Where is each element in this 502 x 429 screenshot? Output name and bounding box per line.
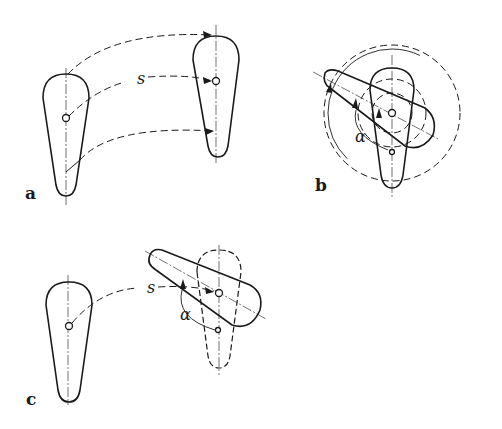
arrow-mid [203, 77, 212, 84]
diagram-canvas: s a α b [0, 0, 502, 429]
pivot-c1 [66, 323, 73, 330]
panel-label-b: b [315, 175, 327, 195]
pivot-c2 [216, 290, 223, 297]
panel-c: s α c [26, 245, 266, 409]
arrow-c-rotate [180, 279, 186, 289]
panel-label-a: a [25, 183, 36, 203]
panel-label-c: c [26, 389, 36, 409]
panel-b: α b [313, 45, 460, 198]
symbol-alpha-c: α [180, 305, 191, 324]
arrow-bottom [205, 128, 214, 135]
pivot-a2 [213, 78, 220, 85]
panel-a: s a [25, 25, 239, 205]
path-c-1 [72, 288, 138, 323]
symbol-s-a: s [137, 69, 145, 88]
symbol-s-c: s [147, 278, 155, 297]
link-c1-outline [46, 282, 92, 402]
pivot-b [389, 110, 396, 117]
motion-diagram: s a α b [0, 0, 502, 429]
pivot-a1 [63, 115, 70, 122]
path-bottom [80, 130, 214, 160]
arrow-rot-inner [376, 108, 382, 118]
marker-c [216, 328, 221, 333]
marker-b [390, 150, 395, 155]
arrow-rot-mid [352, 98, 358, 108]
symbol-alpha-b: α [355, 127, 366, 146]
link-c2-rotated-outline [149, 250, 261, 327]
path-mid-2 [148, 76, 212, 81]
path-mid-1 [69, 82, 125, 116]
arrow-c-translate [205, 287, 214, 294]
